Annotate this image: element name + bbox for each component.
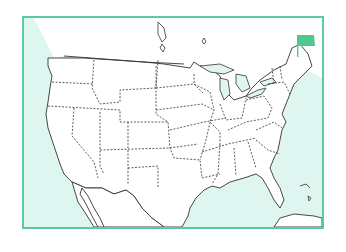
bahamas	[300, 184, 310, 188]
us-outline-map	[24, 18, 322, 227]
bahamas	[308, 196, 311, 201]
map-frame	[22, 16, 324, 229]
cuba	[274, 214, 322, 227]
